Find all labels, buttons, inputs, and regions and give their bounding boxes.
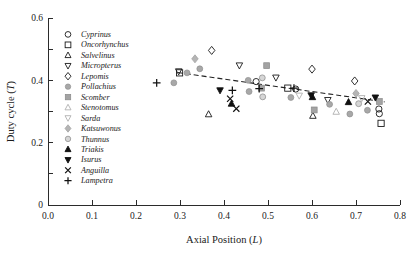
data-point (353, 89, 360, 97)
legend-item: Scomber (65, 93, 110, 102)
data-point (296, 93, 303, 99)
marker-triangle-up-gray (65, 104, 71, 110)
data-point (205, 111, 212, 117)
data-point (327, 101, 333, 107)
legend-item: Pollachius (65, 82, 116, 91)
x-axis-title-symbol: L (252, 234, 259, 245)
data-point (351, 77, 358, 85)
data-point (288, 95, 294, 101)
marker-square-filled-gray (65, 94, 70, 99)
series-katsuwonus (192, 55, 360, 98)
data-point (171, 80, 177, 86)
data-point (364, 107, 370, 113)
data-point (311, 107, 317, 113)
x-tick-label: 0.8 (394, 211, 406, 221)
series-salvelinus (205, 111, 316, 119)
trend-line (178, 73, 385, 102)
data-point (273, 75, 280, 81)
data-point (260, 94, 266, 100)
x-tick-label: 0.0 (42, 211, 54, 221)
data-point (378, 120, 384, 126)
x-tick-label: 0.6 (306, 211, 318, 221)
data-point (333, 108, 340, 114)
legend-label: Cyprinus (81, 30, 111, 39)
marker-diamond-open (65, 72, 71, 79)
marker-triangle-up-open (65, 52, 71, 58)
legend-item: Salvelinus (65, 51, 115, 60)
x-tick-label: 0.2 (130, 211, 142, 221)
data-points-layer (153, 46, 384, 126)
marker-circle-gray-ring (65, 136, 70, 141)
legend-item: Sarda (65, 114, 100, 123)
series-lepomis (208, 46, 358, 85)
y-axis-title: Duty cycle (T) (5, 80, 17, 142)
legend-label: Sarda (81, 114, 100, 123)
x-tick-label: 0.7 (350, 211, 362, 221)
legend-label: Salvelinus (81, 51, 115, 60)
data-point (227, 96, 233, 102)
legend-item: Anguilla (65, 166, 109, 175)
data-point (365, 98, 371, 104)
data-point (309, 65, 316, 73)
y-tick-label: 0.6 (31, 13, 43, 23)
legend-label: Pollachius (80, 82, 116, 91)
series-oncorhynchus (176, 70, 384, 127)
legend-item: Lepomis (65, 72, 109, 81)
marker-square-open (65, 42, 71, 48)
legend-label: Triakis (81, 145, 104, 154)
legend-label: Stenotomus (81, 103, 119, 112)
data-point (233, 106, 239, 112)
y-tick-label: 0 (38, 200, 43, 210)
data-point (356, 101, 362, 107)
series-scomber (258, 63, 382, 113)
x-axis-title: Axial Position (L) (186, 234, 262, 246)
marker-triangle-down-filled (65, 158, 71, 164)
legend-item: Thunnus (65, 135, 109, 144)
data-point (208, 46, 215, 54)
data-point (376, 99, 382, 105)
legend-item: Cyprinus (65, 30, 111, 39)
x-tick-label: 0.4 (218, 211, 230, 221)
legend-item: Isurus (65, 155, 101, 164)
y-tick-label: 0.4 (31, 76, 43, 86)
data-point (264, 63, 270, 69)
legend-label: Scomber (81, 93, 110, 102)
data-point (259, 75, 265, 81)
x-tick-label: 0.3 (174, 211, 186, 221)
legend-item: Micropterus (65, 61, 121, 70)
y-axis-title-symbol: T (5, 83, 16, 90)
data-point (192, 55, 199, 63)
data-point (245, 77, 251, 83)
marker-plus (64, 177, 71, 184)
legend-item: Stenotomus (65, 103, 119, 112)
legend-item: Oncorhynchus (65, 40, 128, 49)
legend-label: Lepomis (80, 72, 109, 81)
marker-circle-open (65, 32, 71, 38)
legend-item: Triakis (65, 145, 104, 154)
marker-circle-filled-gray (65, 84, 70, 89)
marker-triangle-down-open (65, 63, 71, 69)
data-point (253, 78, 259, 84)
legend: CyprinusOncorhynchusSalvelinusMicropteru… (64, 30, 128, 185)
legend-label: Lampetra (80, 176, 113, 185)
legend-label: Oncorhynchus (81, 40, 129, 49)
marker-diamond-gray (65, 125, 71, 132)
series-cyprinus (253, 78, 382, 116)
legend-label: Isurus (80, 155, 101, 164)
data-point (376, 111, 382, 117)
data-point (217, 88, 224, 94)
x-tick-label: 0.1 (86, 211, 98, 221)
data-point (345, 99, 352, 105)
data-point (197, 66, 203, 72)
marker-triangle-down-gray (65, 116, 71, 122)
data-point (153, 79, 161, 87)
series-stenotomus (333, 108, 340, 114)
scatter-plot-canvas: 0.00.10.20.30.40.50.60.70.800.20.40.6Axi… (0, 0, 411, 253)
marker-triangle-up-filled (65, 146, 71, 152)
marker-cross-x (65, 167, 71, 173)
legend-item: Katsuwonus (65, 124, 121, 133)
x-tick-label: 0.5 (262, 211, 274, 221)
legend-label: Micropterus (80, 61, 121, 70)
legend-label: Thunnus (81, 135, 109, 144)
legend-item: Lampetra (64, 176, 112, 185)
